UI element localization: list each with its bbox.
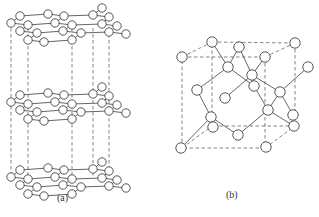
carbon-atom xyxy=(122,184,130,192)
carbon-atom xyxy=(44,164,52,172)
carbon-atom xyxy=(7,98,15,106)
carbon-atom xyxy=(51,19,59,27)
carbon-atom xyxy=(233,130,243,140)
carbon-atom xyxy=(24,21,32,29)
carbon-atom xyxy=(176,143,186,153)
carbon-atom xyxy=(98,158,106,166)
carbon-atom xyxy=(24,115,32,123)
bond xyxy=(197,67,228,90)
graphite-layer-1 xyxy=(7,4,130,46)
graphite-layer-2 xyxy=(7,83,130,125)
graphite-structure xyxy=(7,4,130,200)
carbon-atom xyxy=(260,52,270,62)
carbon-atom xyxy=(68,190,76,198)
carbon-atom xyxy=(220,93,230,103)
carbon-atom xyxy=(247,70,257,80)
carbon-atom xyxy=(24,175,32,183)
carbon-atom xyxy=(33,29,41,37)
carbon-atom xyxy=(89,165,97,173)
carbon-atom xyxy=(303,62,313,72)
carbon-atom xyxy=(105,28,113,36)
carbon-atom xyxy=(105,92,113,100)
carbon-atom xyxy=(207,37,217,47)
carbon-atom xyxy=(24,190,32,198)
carbon-atom xyxy=(98,174,106,182)
carbon-atom xyxy=(122,30,130,38)
cube-edge xyxy=(212,42,295,43)
carbon-atom xyxy=(16,91,24,99)
carbon-atom xyxy=(208,122,218,132)
carbon-atom xyxy=(44,10,52,18)
carbon-atom xyxy=(234,42,244,52)
bond xyxy=(181,117,211,148)
carbon-atom xyxy=(105,182,113,190)
carbon-atom xyxy=(263,105,273,115)
carbon-atom xyxy=(98,99,106,107)
carbon-atom xyxy=(289,121,299,131)
carbon-atom xyxy=(40,38,48,46)
carbon-atom xyxy=(77,29,85,37)
carbon-atom xyxy=(7,173,15,181)
carbon-atom xyxy=(16,106,24,114)
carbon-atom xyxy=(44,89,52,97)
carbon-atom xyxy=(105,167,113,175)
carbon-atom xyxy=(68,100,76,108)
carbon-atom xyxy=(68,175,76,183)
carbon-atom xyxy=(60,12,68,20)
panel-label-a: (a) xyxy=(57,192,68,203)
carbon-atom xyxy=(89,90,97,98)
carbon-atom xyxy=(261,142,271,152)
carbon-atom xyxy=(105,13,113,21)
carbon-atom xyxy=(249,81,259,91)
carbon-atom xyxy=(290,38,300,48)
carbon-atom xyxy=(24,36,32,44)
carbon-atom xyxy=(98,83,106,91)
carbon-atom xyxy=(223,62,233,72)
cube-edge xyxy=(182,126,212,148)
carbon-atom xyxy=(40,192,48,200)
carbon-atom xyxy=(33,108,41,116)
carbon-atom xyxy=(288,110,298,120)
carbon-atom xyxy=(16,181,24,189)
carbon-atom xyxy=(16,27,24,35)
carbon-atom xyxy=(59,27,67,35)
carbon-atom xyxy=(16,12,24,20)
carbon-atom xyxy=(113,22,121,30)
carbon-atom xyxy=(122,109,130,117)
carbon-atom xyxy=(206,112,216,122)
carbon-atom xyxy=(51,98,59,106)
carbon-atom xyxy=(60,166,68,174)
panel-label-b: (b) xyxy=(226,189,238,200)
carbon-atom xyxy=(40,117,48,125)
graphite-layer-3 xyxy=(7,158,130,200)
bond xyxy=(238,110,268,135)
carbon-atom xyxy=(105,107,113,115)
carbon-atom xyxy=(33,183,41,191)
carbon-atom xyxy=(68,36,76,44)
carbon-atom xyxy=(77,108,85,116)
carbon-atom xyxy=(7,19,15,27)
carbon-atom xyxy=(177,52,187,62)
carbon-atom xyxy=(89,11,97,19)
carbon-atom xyxy=(60,91,68,99)
carbon-atom xyxy=(68,21,76,29)
carbon-atom xyxy=(59,181,67,189)
crystal-structures-figure xyxy=(0,0,319,217)
carbon-atom xyxy=(113,101,121,109)
carbon-atom xyxy=(98,20,106,28)
carbon-atom xyxy=(98,4,106,12)
carbon-atom xyxy=(113,176,121,184)
carbon-atom xyxy=(68,115,76,123)
carbon-atom xyxy=(16,166,24,174)
carbon-atom xyxy=(275,87,285,97)
diamond-structure xyxy=(176,37,313,153)
carbon-atom xyxy=(51,173,59,181)
carbon-atom xyxy=(77,183,85,191)
carbon-atom xyxy=(24,100,32,108)
carbon-atom xyxy=(59,106,67,114)
carbon-atom xyxy=(192,85,202,95)
